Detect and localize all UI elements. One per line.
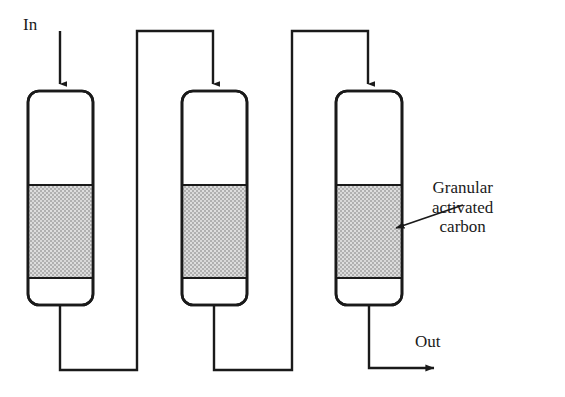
adsorption-column-2 [182,91,247,305]
adsorption-column-3 [336,91,402,305]
granular-activated-carbon-callout: Granular activated carbon [432,178,493,237]
column-1-carbon-bed [29,185,91,278]
inlet-label: In [23,15,37,35]
callout-line-1: Granular [432,178,493,198]
callout-line-3: carbon [432,217,493,237]
callout-line-2: activated [432,198,493,218]
adsorption-column-1 [28,91,93,305]
column-2-carbon-bed [183,185,245,278]
column-3-carbon-bed [337,185,400,278]
gac-process-diagram: In Out Granular activated carbon [0,0,565,397]
outlet-label: Out [415,332,441,352]
